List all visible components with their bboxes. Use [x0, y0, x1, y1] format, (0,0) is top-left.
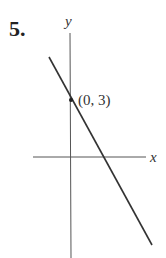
y-axis: [70, 33, 71, 258]
graph-line: [49, 57, 152, 245]
point-label: (0, 3): [78, 92, 111, 109]
y-axis-label: y: [63, 13, 72, 29]
point-marker: [69, 98, 73, 102]
x-axis-label: x: [149, 149, 157, 165]
graph: y x (0, 3): [0, 0, 166, 258]
